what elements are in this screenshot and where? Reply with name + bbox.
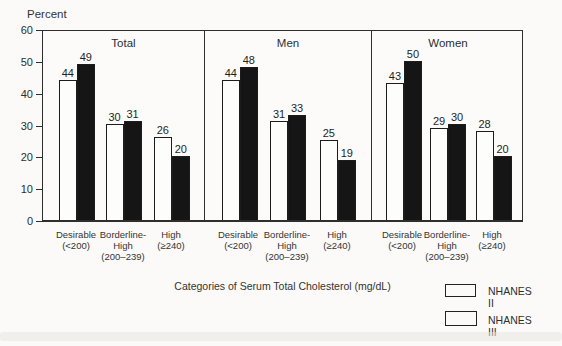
bar-column: 28 xyxy=(476,118,494,220)
y-tick-label: 40 xyxy=(8,88,33,100)
category-label-line: Borderline- xyxy=(100,229,146,240)
y-axis-title: Percent xyxy=(27,8,67,20)
category-label: High(≥240) xyxy=(157,229,184,251)
category-label-line: Borderline- xyxy=(264,229,310,240)
bar-nhanes-ii xyxy=(222,80,240,220)
panel-title-total: Total xyxy=(43,37,204,49)
bar-column: 20 xyxy=(172,143,190,220)
bar-nhanes-ii xyxy=(476,131,494,220)
bar-value-label: 50 xyxy=(407,48,419,60)
y-tick xyxy=(36,157,42,158)
category-label: High(≥240) xyxy=(323,229,350,251)
bar-nhanes-iii xyxy=(172,156,190,220)
category-label: Borderline-High(200–239) xyxy=(264,229,310,262)
category-label-line: (200–239) xyxy=(424,251,470,262)
chart-canvas: Percent Total444930312620Men444831332519… xyxy=(0,0,562,346)
bar-group: 3031 xyxy=(106,108,142,220)
bar-group: 2620 xyxy=(154,124,190,220)
y-tick xyxy=(36,30,42,31)
bar-column: 43 xyxy=(386,70,404,220)
bar-nhanes-iii xyxy=(240,67,258,220)
bar-value-label: 30 xyxy=(108,111,120,123)
bar-column: 31 xyxy=(124,108,142,220)
bar-column: 50 xyxy=(404,48,422,220)
bar-group: 2519 xyxy=(320,127,356,220)
panel-men: Men444831332519 xyxy=(204,31,371,220)
bar-value-label: 48 xyxy=(243,54,255,66)
bar-nhanes-ii xyxy=(320,140,338,220)
category-label-line: Desirable xyxy=(218,229,258,240)
category-label-line: (200–239) xyxy=(100,251,146,262)
bar-column: 44 xyxy=(222,67,240,220)
bar-nhanes-ii xyxy=(270,121,288,220)
y-tick xyxy=(36,189,42,190)
category-label-line: (≥240) xyxy=(157,240,184,251)
bar-value-label: 25 xyxy=(323,127,335,139)
category-label-line: High xyxy=(157,229,184,240)
bar-column: 25 xyxy=(320,127,338,220)
bar-column: 33 xyxy=(288,102,306,220)
panel-total: Total444930312620 xyxy=(43,31,204,220)
bar-nhanes-iii xyxy=(494,156,512,220)
y-tick-label: 30 xyxy=(8,120,33,132)
bar-column: 48 xyxy=(240,54,258,220)
category-label: Desirable(<200) xyxy=(56,229,96,251)
category-label-line: High xyxy=(100,240,146,251)
y-tick-label: 0 xyxy=(8,215,33,227)
bar-value-label: 26 xyxy=(157,124,169,136)
category-label-line: High xyxy=(478,229,505,240)
category-label-line: (<200) xyxy=(218,240,258,251)
bar-nhanes-iii xyxy=(338,160,356,220)
y-tick xyxy=(36,62,42,63)
category-label-line: Desirable xyxy=(56,229,96,240)
panel-women: Women435029302820 xyxy=(371,31,524,220)
bar-group: 4449 xyxy=(59,51,95,220)
bar-nhanes-iii xyxy=(404,61,422,220)
category-label: Desirable(<200) xyxy=(218,229,258,251)
bar-column: 19 xyxy=(338,147,356,220)
bar-column: 30 xyxy=(448,111,466,220)
bar-nhanes-iii xyxy=(77,64,95,220)
y-tick-label: 20 xyxy=(8,151,33,163)
bar-value-label: 30 xyxy=(451,111,463,123)
category-label-line: (≥240) xyxy=(323,240,350,251)
bar-value-label: 20 xyxy=(175,143,187,155)
panel-title-men: Men xyxy=(205,37,371,49)
legend-swatch-nhanes-ii xyxy=(445,284,476,297)
category-label: Borderline-High(200–239) xyxy=(424,229,470,262)
bar-value-label: 20 xyxy=(496,143,508,155)
category-label-line: (<200) xyxy=(56,240,96,251)
bar-nhanes-ii xyxy=(430,128,448,220)
bar-value-label: 49 xyxy=(80,51,92,63)
bar-value-label: 44 xyxy=(62,67,74,79)
bar-nhanes-iii xyxy=(288,115,306,220)
y-tick xyxy=(36,126,42,127)
category-label-line: High xyxy=(264,240,310,251)
y-tick-label: 60 xyxy=(8,24,33,36)
legend-label-nhanes-ii: NHANES II xyxy=(488,285,532,309)
bar-column: 29 xyxy=(430,115,448,220)
category-label-line: Borderline- xyxy=(424,229,470,240)
bar-value-label: 33 xyxy=(291,102,303,114)
bar-column: 31 xyxy=(270,108,288,220)
category-label-line: High xyxy=(323,229,350,240)
category-label: Desirable(<200) xyxy=(382,229,422,251)
bar-value-label: 28 xyxy=(478,118,490,130)
bar-nhanes-iii xyxy=(124,121,142,220)
bar-nhanes-ii xyxy=(106,124,124,220)
bar-group: 3133 xyxy=(270,102,306,220)
category-label-line: Desirable xyxy=(382,229,422,240)
category-label-line: (<200) xyxy=(382,240,422,251)
bar-value-label: 19 xyxy=(341,147,353,159)
bar-nhanes-ii xyxy=(386,83,404,220)
bar-column: 49 xyxy=(77,51,95,220)
category-label-line: High xyxy=(424,240,470,251)
y-tick xyxy=(36,94,42,95)
y-tick-label: 10 xyxy=(8,183,33,195)
bar-value-label: 29 xyxy=(433,115,445,127)
bar-value-label: 44 xyxy=(225,67,237,79)
bar-group: 4350 xyxy=(386,48,422,220)
bar-column: 20 xyxy=(494,143,512,220)
bar-group: 2820 xyxy=(476,118,512,220)
bar-value-label: 31 xyxy=(273,108,285,120)
